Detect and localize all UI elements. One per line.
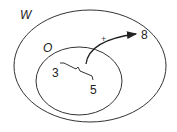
bracket-3-to-5 bbox=[60, 63, 93, 80]
outer-set-w bbox=[14, 10, 166, 122]
plus-sign: + bbox=[101, 34, 106, 44]
element-5: 5 bbox=[90, 83, 97, 97]
element-8: 8 bbox=[141, 28, 148, 42]
inner-set-label: O bbox=[43, 41, 52, 55]
venn-diagram: W O 3 5 8 + bbox=[0, 0, 177, 132]
arrow-to-8 bbox=[86, 34, 136, 64]
inner-set-o bbox=[36, 47, 122, 115]
outer-set-label: W bbox=[20, 8, 33, 22]
element-3: 3 bbox=[52, 66, 59, 80]
